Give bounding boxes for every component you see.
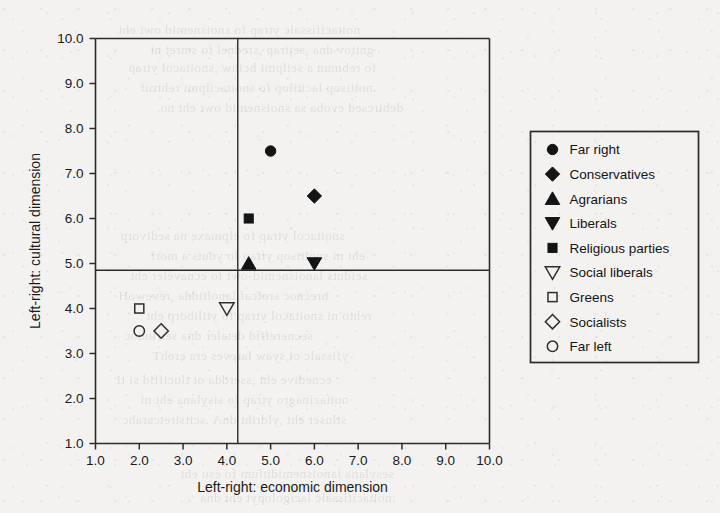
x-tick-label: 8.0 bbox=[393, 453, 412, 468]
y-axis-title: Left-right: cultural dimension bbox=[27, 153, 43, 329]
marker-diamond-open-point bbox=[154, 324, 168, 338]
x-tick-label: 6.0 bbox=[305, 453, 324, 468]
data-point[interactable]: Liberals (6, 5) bbox=[307, 258, 321, 271]
x-tick-label: 1.0 bbox=[86, 453, 105, 468]
y-tick-label: 9.0 bbox=[65, 76, 84, 91]
legend-item[interactable]: Religious parties bbox=[533, 237, 697, 259]
marker-square-open-legend bbox=[548, 293, 557, 302]
legend-item[interactable]: Far left bbox=[533, 335, 697, 357]
legend-item[interactable]: Conservatives bbox=[533, 163, 697, 185]
legend-item-label: Far left bbox=[570, 339, 612, 354]
marker-square-open-point bbox=[135, 304, 144, 313]
marker-triangle-down-filled-point bbox=[307, 258, 321, 271]
legend-item[interactable]: Agrarians bbox=[533, 188, 697, 210]
y-tick-label: 2.0 bbox=[65, 391, 84, 406]
x-tick-label: 5.0 bbox=[261, 453, 280, 468]
data-point[interactable]: Social liberals (4, 4) bbox=[220, 303, 234, 316]
y-tick-label: 1.0 bbox=[65, 436, 84, 451]
legend-item-label: Social liberals bbox=[570, 265, 654, 280]
data-point[interactable]: Socialists (2.5, 3.5) bbox=[154, 324, 168, 338]
data-point[interactable]: Conservatives (6, 6.5) bbox=[307, 189, 321, 203]
legend: Far rightConservativesAgrariansLiberalsR… bbox=[531, 132, 699, 363]
marker-triangle-up-filled-point bbox=[241, 257, 255, 270]
x-axis-title: Left-right: economic dimension bbox=[197, 479, 388, 495]
x-tick-label: 7.0 bbox=[349, 453, 368, 468]
y-tick-label: 4.0 bbox=[65, 301, 84, 316]
data-point[interactable]: Greens (2, 4) bbox=[135, 304, 144, 313]
scatter-plot-figure: 1.02.03.04.05.06.07.08.09.010.01.02.03.0… bbox=[0, 0, 720, 513]
marker-circle-open-point bbox=[134, 326, 144, 336]
y-tick-label: 8.0 bbox=[65, 121, 84, 136]
data-point[interactable]: Far left (2, 3.5) bbox=[134, 326, 144, 336]
marker-circle-filled-point bbox=[265, 146, 275, 156]
x-tick-label: 3.0 bbox=[174, 453, 193, 468]
legend-item-label: Liberals bbox=[570, 216, 618, 231]
y-tick-label: 10.0 bbox=[57, 31, 83, 46]
y-tick-label: 7.0 bbox=[65, 166, 84, 181]
y-tick-label: 5.0 bbox=[65, 256, 84, 271]
plot-canvas: 1.02.03.04.05.06.07.08.09.010.01.02.03.0… bbox=[0, 0, 720, 513]
legend-item[interactable]: Social liberals bbox=[533, 262, 697, 284]
legend-item[interactable]: Far right bbox=[533, 139, 697, 161]
marker-diamond-filled-point bbox=[307, 189, 321, 203]
legend-item-label: Socialists bbox=[570, 315, 627, 330]
x-tick-label: 4.0 bbox=[217, 453, 236, 468]
legend-item[interactable]: Socialists bbox=[533, 311, 697, 333]
legend-item-label: Greens bbox=[570, 290, 615, 305]
legend-item-label: Agrarians bbox=[570, 192, 628, 207]
marker-circle-open-legend bbox=[547, 341, 557, 351]
data-point-layer: Far right (5, 7.5)Conservatives (6, 6.5)… bbox=[134, 146, 322, 338]
y-tick-label: 3.0 bbox=[65, 346, 84, 361]
legend-item-label: Far right bbox=[570, 142, 621, 157]
data-point[interactable]: Religious parties (4.5, 6) bbox=[244, 214, 253, 223]
legend-item-label: Religious parties bbox=[570, 241, 670, 256]
x-tick-label: 10.0 bbox=[476, 453, 502, 468]
marker-square-filled-point bbox=[244, 214, 253, 223]
legend-item-label: Conservatives bbox=[570, 167, 656, 182]
marker-triangle-down-open-point bbox=[220, 303, 234, 316]
marker-circle-filled-legend bbox=[547, 144, 557, 154]
legend-item[interactable]: Greens bbox=[533, 286, 697, 308]
data-point[interactable]: Agrarians (4.5, 5) bbox=[241, 257, 255, 270]
y-tick-label: 6.0 bbox=[65, 211, 84, 226]
marker-square-filled-legend bbox=[548, 243, 557, 252]
x-tick-label: 2.0 bbox=[130, 453, 149, 468]
legend-item[interactable]: Liberals bbox=[533, 212, 697, 234]
x-tick-label: 9.0 bbox=[436, 453, 455, 468]
data-point[interactable]: Far right (5, 7.5) bbox=[265, 146, 275, 156]
